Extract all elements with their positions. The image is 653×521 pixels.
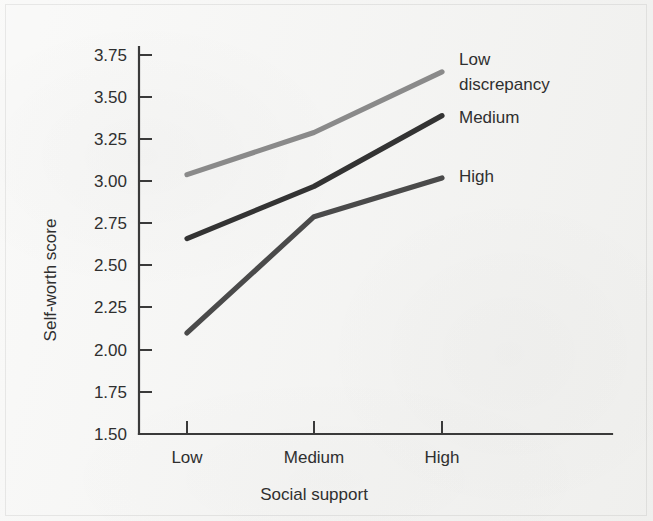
series-line-low-discrepancy	[187, 72, 442, 175]
y-tick-label: 2.00	[94, 341, 127, 360]
series-label-high: High	[459, 167, 494, 186]
series-label-medium: Medium	[459, 108, 519, 127]
series-label-line2: discrepancy	[459, 75, 550, 94]
series-line-high	[187, 178, 442, 333]
series-label-line1: High	[459, 167, 494, 186]
x-axis-tick-labels: Low Medium High	[171, 448, 459, 467]
y-tick-label: 3.50	[94, 88, 127, 107]
y-tick-label: 3.75	[94, 46, 127, 65]
x-axis-title: Social support	[260, 485, 368, 504]
y-tick-label: 2.25	[94, 298, 127, 317]
x-tick-label-low: Low	[171, 448, 203, 467]
y-tick-label: 3.00	[94, 172, 127, 191]
x-axis-ticks	[187, 421, 442, 434]
x-tick-label-high: High	[425, 448, 460, 467]
line-chart-plot: Self-worth score 1.50 1.75 2.00 2.25 2.5…	[0, 0, 653, 521]
y-axis-ticks	[139, 55, 152, 434]
series-label-line1: Low	[459, 50, 491, 69]
y-tick-label: 1.75	[94, 383, 127, 402]
y-tick-label: 2.50	[94, 256, 127, 275]
series-label-low-discrepancy: Low discrepancy	[459, 50, 550, 94]
series-label-line1: Medium	[459, 108, 519, 127]
y-tick-label: 2.75	[94, 214, 127, 233]
chart-figure: Self-worth score 1.50 1.75 2.00 2.25 2.5…	[0, 0, 653, 521]
y-axis-title: Self-worth score	[41, 219, 60, 342]
y-axis-tick-labels: 1.50 1.75 2.00 2.25 2.50 2.75 3.00 3.25 …	[94, 46, 127, 444]
y-tick-label: 3.25	[94, 130, 127, 149]
y-tick-label: 1.50	[94, 425, 127, 444]
x-tick-label-medium: Medium	[284, 448, 344, 467]
